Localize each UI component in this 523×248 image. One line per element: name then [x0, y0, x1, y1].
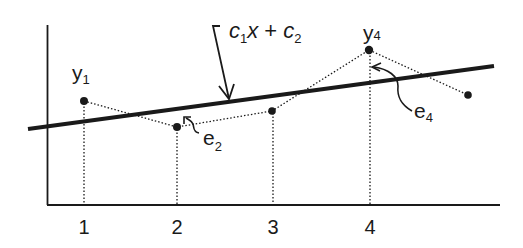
- x-tick-4: 4: [364, 216, 375, 238]
- residual-e4-arrow-icon: [372, 63, 412, 111]
- fit-line-label: c1x + c2: [229, 18, 302, 46]
- point-label-y4: y4: [363, 21, 381, 44]
- residual-label-e4: e4: [414, 99, 433, 125]
- data-point-1: [80, 97, 88, 105]
- x-tick-2: 2: [171, 216, 182, 238]
- residual-label-e2: e2: [203, 126, 222, 154]
- data-point-4: [365, 46, 373, 54]
- data-point-5: [464, 91, 472, 99]
- point-label-y1: y1: [72, 61, 90, 87]
- data-point-2: [173, 123, 181, 131]
- x-tick-1: 1: [78, 216, 89, 238]
- data-point-3: [268, 107, 276, 115]
- regression-diagram: c1x + c2 y1 y4 e2 e4 1 2 3 4: [0, 0, 523, 248]
- drop-lines: [84, 52, 370, 205]
- x-tick-3: 3: [267, 216, 278, 238]
